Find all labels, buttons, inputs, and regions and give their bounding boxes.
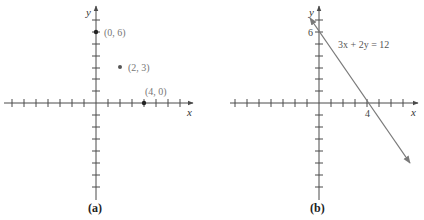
point-2-3 bbox=[118, 65, 122, 69]
y-axis-label: y bbox=[85, 6, 91, 18]
caption-a: (a) bbox=[88, 201, 102, 215]
panel-b: y x 6 4 3x + 2y = 12 (b) bbox=[230, 6, 418, 215]
y-axis-label: y bbox=[308, 6, 314, 18]
x-axis-label: x bbox=[186, 106, 192, 118]
equation-label: 3x + 2y = 12 bbox=[338, 39, 389, 50]
x-intercept-label: 4 bbox=[365, 108, 370, 119]
caption-b: (b) bbox=[310, 201, 325, 215]
x-axis-label: x bbox=[410, 106, 416, 118]
point-4-0 bbox=[142, 101, 146, 105]
point-label-4-0: (4, 0) bbox=[145, 86, 167, 98]
y-intercept-label: 6 bbox=[308, 27, 313, 38]
panel-a: y x (0, 6) (2, 3) (4, 0) (a) bbox=[4, 6, 193, 215]
point-label-0-6: (0, 6) bbox=[104, 27, 126, 39]
point-0-6 bbox=[94, 30, 98, 34]
point-label-2-3: (2, 3) bbox=[128, 62, 150, 74]
